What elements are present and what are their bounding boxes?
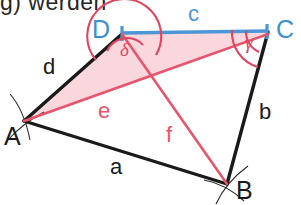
geometry-figure — [0, 0, 301, 205]
side-label-c: c — [188, 3, 199, 25]
vertex-label-b: B — [236, 178, 253, 203]
vertex-label-d: D — [92, 17, 110, 42]
vertex-label-c: C — [276, 17, 294, 42]
vertex-label-a: A — [4, 124, 21, 149]
angle-label-gamma: γ — [245, 33, 253, 52]
diagonal-label-e: e — [98, 100, 110, 122]
side-a-line — [24, 121, 227, 184]
diagram-canvas: g) werden A B — [0, 0, 301, 205]
side-label-b: b — [259, 101, 271, 123]
side-label-a: a — [110, 156, 122, 178]
angle-label-delta: δ — [120, 40, 129, 59]
side-label-d: d — [43, 56, 55, 78]
diagonal-label-f: f — [166, 124, 172, 146]
